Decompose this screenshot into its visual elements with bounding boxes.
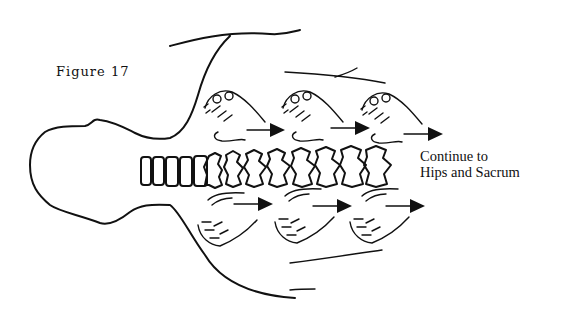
upper-hand-1 xyxy=(204,91,265,141)
upper-hand-3 xyxy=(361,93,422,143)
figure-caption: Continue to Hips and Sacrum xyxy=(420,148,520,180)
upper-arrow-3 xyxy=(404,127,443,141)
lower-hand-1 xyxy=(198,193,257,246)
caption-line-1: Continue to xyxy=(420,148,520,164)
lower-arrow-2 xyxy=(313,199,352,213)
lower-arrow-1 xyxy=(234,197,273,211)
lower-hand-2 xyxy=(275,189,334,243)
lower-hand-3 xyxy=(350,189,409,243)
spine xyxy=(141,146,391,188)
caption-line-2: Hips and Sacrum xyxy=(420,164,520,180)
back-contour-upper xyxy=(285,68,385,83)
back-contour-bottom xyxy=(290,289,315,290)
figure-17-diagram: Figure 17 Continue to Hips and Sacrum xyxy=(0,0,569,318)
upper-arrow-2 xyxy=(331,121,370,135)
upper-arrow-1 xyxy=(247,123,285,137)
back-contour-lower xyxy=(290,250,382,263)
figure-label: Figure 17 xyxy=(56,64,129,79)
lower-arrow-3 xyxy=(386,199,425,213)
upper-hand-2 xyxy=(282,91,343,141)
